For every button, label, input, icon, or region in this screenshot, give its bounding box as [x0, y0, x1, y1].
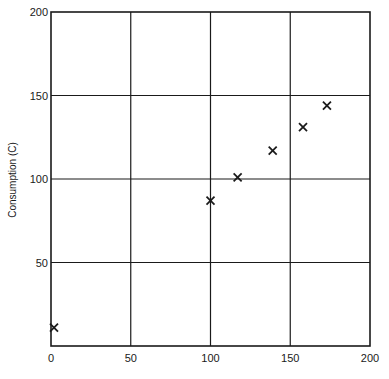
- x-marker-icon: [234, 173, 242, 181]
- y-tick-label: 200: [30, 6, 48, 18]
- x-marker-icon: [323, 102, 331, 110]
- y-axis-ticks: 50100150200: [30, 6, 48, 269]
- x-marker-icon: [269, 147, 277, 155]
- y-axis-label: Consumption (C): [7, 142, 18, 218]
- x-tick-label: 0: [48, 352, 54, 364]
- x-axis-ticks: 050100150200: [48, 352, 379, 364]
- grid-lines: [51, 12, 370, 346]
- x-tick-label: 200: [361, 352, 379, 364]
- x-tick-label: 150: [281, 352, 299, 364]
- x-tick-label: 100: [201, 352, 219, 364]
- y-tick-label: 50: [36, 257, 48, 269]
- x-marker-icon: [299, 123, 307, 131]
- y-tick-label: 150: [30, 90, 48, 102]
- x-tick-label: 50: [125, 352, 137, 364]
- y-tick-label: 100: [30, 173, 48, 185]
- data-points: [50, 102, 331, 332]
- scatter-chart: 50100150200 050100150200 Consumption (C): [0, 0, 389, 379]
